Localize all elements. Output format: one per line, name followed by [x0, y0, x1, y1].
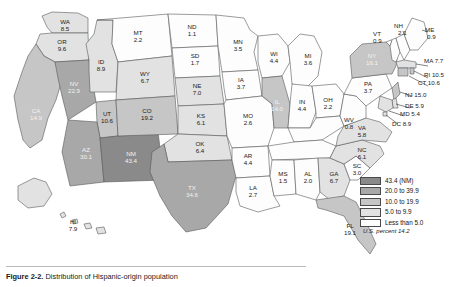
- caption-divider: [6, 266, 306, 267]
- state-AK: [18, 178, 52, 208]
- label-DC: DC 8.9: [392, 120, 412, 127]
- label-RI: RI 10.5: [424, 71, 445, 78]
- label-CT: CT 10.6: [418, 79, 440, 86]
- label-MA: MA 7.7: [424, 57, 444, 64]
- legend-swatch-1: [360, 187, 381, 195]
- label-LA: LA2.7: [249, 184, 258, 198]
- state-HI-1: [60, 212, 66, 218]
- choropleth-map-figure: .st{stroke:#55595c;stroke-width:0.6;stro…: [0, 0, 458, 287]
- caption-label: Figure: [6, 272, 29, 281]
- label-MO: MO2.6: [243, 112, 253, 126]
- label-NM: NM43.4: [125, 150, 138, 164]
- legend-label-4: Less than 5.0: [385, 219, 423, 227]
- state-MA: [396, 60, 416, 68]
- label-DE: DE 5.9: [405, 102, 424, 109]
- label-VA: VA5.8: [358, 124, 367, 138]
- us-percent-note: U.S. percent 14.2: [363, 228, 410, 234]
- label-NH: NH2.1: [394, 22, 407, 36]
- map-legend: 43.4 (NM) 20.0 to 39.9 10.0 to 19.9 5.0 …: [360, 176, 458, 229]
- label-SC: SC3.0: [353, 162, 362, 176]
- label-PA: PA3.7: [364, 80, 373, 94]
- state-NJ: [392, 82, 400, 100]
- legend-item-2: 10.0 to 19.9: [360, 197, 458, 206]
- state-MD: [378, 96, 393, 112]
- figure-caption: Figure 2-2. Distribution of Hispanic-ori…: [6, 272, 178, 281]
- label-MN: MN3.5: [233, 38, 243, 52]
- label-VT: VT0.9: [373, 30, 382, 44]
- legend-label-1: 20.0 to 39.9: [385, 187, 419, 195]
- state-CT: [398, 68, 408, 76]
- label-AR: AR4.4: [244, 152, 253, 166]
- legend-item-1: 20.0 to 39.9: [360, 187, 458, 196]
- label-OK: OK6.4: [196, 140, 206, 154]
- legend-swatch-4: [360, 219, 381, 227]
- legend-swatch-0: [360, 177, 381, 185]
- label-WY: WY6.7: [140, 70, 150, 84]
- caption-number: 2-2.: [31, 272, 44, 281]
- label-MT: MT2.2: [134, 29, 143, 43]
- legend-item-4: Less than 5.0: [360, 218, 458, 227]
- label-NC: NC6.1: [358, 146, 367, 160]
- label-WV: WV0.8: [344, 116, 355, 130]
- label-ME: ME0.9: [425, 26, 436, 40]
- label-ND: ND1.1: [188, 23, 197, 37]
- legend-swatch-2: [360, 198, 381, 206]
- label-MS: MS1.5: [278, 170, 287, 184]
- state-TN: [268, 140, 336, 160]
- legend-label-3: 5.0 to 9.9: [385, 208, 412, 216]
- legend-label-0: 43.4 (NM): [385, 177, 413, 185]
- state-HI-4: [96, 227, 106, 234]
- legend-item-0: 43.4 (NM): [360, 176, 458, 185]
- label-SD: SD1.7: [191, 52, 200, 66]
- label-NJ: NJ 15.0: [405, 91, 427, 98]
- state-RI: [410, 68, 414, 74]
- legend-swatch-3: [360, 208, 381, 216]
- label-GA: GA6.7: [330, 170, 340, 184]
- label-OR: OR9.6: [57, 38, 67, 52]
- label-MD: MD 5.4: [400, 110, 421, 117]
- label-KS: KS6.1: [197, 112, 206, 126]
- state-HI-3: [84, 223, 92, 229]
- caption-text: Distribution of Hispanic-origin populati…: [45, 272, 177, 281]
- label-WI: WI4.4: [270, 50, 279, 64]
- legend-label-2: 10.0 to 19.9: [385, 198, 419, 206]
- label-AL: AL2.0: [304, 170, 313, 184]
- label-NE: NE7.0: [193, 82, 202, 96]
- label-WA: WA8.5: [60, 18, 71, 32]
- label-OH: OH2.2: [323, 96, 332, 110]
- legend-item-3: 5.0 to 9.9: [360, 208, 458, 217]
- us-state-map: .st{stroke:#55595c;stroke-width:0.6;stro…: [0, 0, 458, 287]
